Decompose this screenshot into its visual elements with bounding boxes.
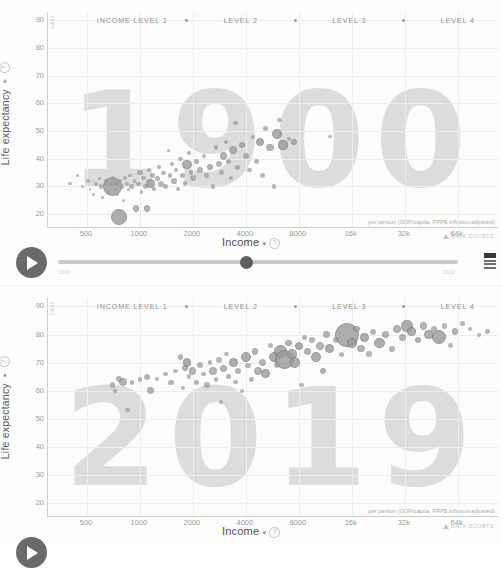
bubble-data-point[interactable] (393, 325, 401, 333)
year-slider-handle[interactable] (240, 256, 253, 269)
bubble-data-point[interactable] (389, 346, 395, 352)
bubble-data-point[interactable] (118, 179, 122, 183)
bubble-data-point[interactable] (178, 354, 184, 360)
bubble-data-point[interactable] (209, 367, 217, 375)
bubble-data-point[interactable] (214, 145, 219, 150)
legend-item-level-4[interactable]: LEVEL 4 (421, 16, 496, 25)
bubble-data-point[interactable] (224, 140, 228, 144)
bubble-data-point[interactable] (147, 387, 154, 394)
plot-area-2019[interactable]: 2019 per person (GDP/capita, PPP$ inflat… (47, 298, 498, 517)
bubble-data-point[interactable] (163, 372, 167, 376)
bubble-data-point[interactable] (460, 321, 465, 326)
bubble-data-point[interactable] (125, 182, 129, 186)
bubble-data-point[interactable] (68, 182, 72, 186)
bubble-data-point[interactable] (302, 335, 308, 341)
bubble-data-point[interactable] (278, 140, 287, 149)
legend-item-level-2[interactable]: LEVEL 2 (204, 16, 279, 25)
bubble-data-point[interactable] (214, 377, 218, 381)
bubble-data-point[interactable] (261, 369, 270, 378)
bubble-data-point[interactable] (226, 374, 231, 379)
bubble-data-point[interactable] (485, 329, 490, 334)
bubble-data-point[interactable] (247, 168, 252, 173)
bubble-data-point[interactable] (167, 149, 170, 152)
bubble-data-point[interactable] (202, 154, 206, 158)
plot-area-1900[interactable]: 1900 per person (GDP/capita, PPP$ inflat… (47, 12, 498, 228)
help-icon[interactable]: ? (0, 62, 11, 73)
bubble-data-point[interactable] (110, 382, 115, 387)
bubble-data-point[interactable] (442, 323, 448, 329)
bubble-data-point[interactable] (219, 400, 223, 404)
bubble-data-point[interactable] (249, 377, 254, 382)
bubble-data-point[interactable] (339, 352, 344, 357)
bubble-data-point[interactable] (224, 352, 229, 357)
bubble-data-point[interactable] (128, 174, 131, 177)
legend-item-level-3[interactable]: LEVEL 3 (312, 302, 387, 311)
bubble-data-point[interactable] (168, 380, 173, 385)
bubble-data-point[interactable] (136, 182, 140, 186)
bubble-data-point[interactable] (176, 187, 180, 191)
bubble-data-point[interactable] (147, 168, 151, 172)
bubble-data-point[interactable] (171, 178, 176, 183)
bubble-data-point[interactable] (366, 351, 372, 357)
legend-item-level-1[interactable]: INCOME LEVEL 1 (95, 16, 170, 25)
bubble-data-point[interactable] (133, 205, 140, 212)
bubble-data-point[interactable] (204, 382, 209, 387)
bubble-data-point[interactable] (256, 138, 264, 146)
bubble-data-point[interactable] (194, 159, 198, 163)
bubble-data-point[interactable] (92, 193, 95, 196)
bubble-data-point[interactable] (180, 173, 185, 178)
bubble-data-point[interactable] (229, 358, 238, 367)
bubble-data-point[interactable] (190, 175, 196, 181)
bubble-data-point[interactable] (81, 185, 84, 188)
bubble-data-point[interactable] (197, 362, 203, 368)
bubble-data-point[interactable] (194, 380, 199, 385)
bubble-data-point[interactable] (233, 380, 237, 384)
bubble-data-point[interactable] (220, 365, 227, 372)
bubble-data-point[interactable] (477, 333, 481, 337)
bubble-data-point[interactable] (208, 360, 213, 365)
data-doubts-link[interactable]: DATA DOUBTS (443, 523, 494, 529)
bubble-data-point[interactable] (182, 160, 191, 169)
bubble-data-point[interactable] (140, 190, 144, 194)
bubble-data-point[interactable] (211, 184, 215, 188)
bubble-data-point[interactable] (304, 348, 311, 355)
bubble-data-point[interactable] (89, 188, 92, 191)
bubble-data-point[interactable] (468, 327, 472, 331)
play-button[interactable] (16, 247, 47, 278)
y-axis-label-2019[interactable]: Life expectancy ▾ ? (0, 356, 11, 459)
bubble-data-point[interactable] (233, 121, 237, 125)
bubble-data-point[interactable] (235, 165, 240, 170)
bubble-data-point[interactable] (144, 205, 150, 211)
bubble-data-point[interactable] (116, 193, 119, 196)
bubble-data-point[interactable] (432, 330, 446, 344)
bubble-data-point[interactable] (201, 372, 205, 376)
play-button[interactable] (16, 537, 47, 568)
bubble-data-point[interactable] (129, 184, 134, 189)
bubble-data-point[interactable] (178, 157, 182, 161)
bubble-data-point[interactable] (272, 184, 276, 188)
bubble-data-point[interactable] (407, 327, 415, 335)
bubble-data-point[interactable] (138, 377, 142, 381)
bubble-data-point[interactable] (207, 164, 213, 170)
bubble-data-point[interactable] (245, 363, 251, 369)
legend-item-level-4[interactable]: LEVEL 4 (421, 302, 496, 311)
help-icon[interactable]: ? (0, 356, 11, 367)
bubble-data-point[interactable] (168, 173, 172, 177)
bubble-data-point[interactable] (415, 337, 421, 343)
bubble-data-point[interactable] (123, 176, 127, 180)
bubble-data-point[interactable] (357, 345, 365, 353)
bubble-data-point[interactable] (235, 368, 241, 374)
bubble-data-point[interactable] (187, 374, 192, 379)
bubble-data-point[interactable] (266, 144, 274, 152)
legend-item-level-2[interactable]: LEVEL 2 (204, 302, 279, 311)
bubble-data-point[interactable] (347, 338, 357, 348)
bubble-data-point[interactable] (76, 174, 79, 177)
country-flag-icon[interactable] (484, 253, 496, 268)
bubble-data-point[interactable] (399, 334, 406, 341)
bubble-data-point[interactable] (299, 383, 303, 387)
bubble-data-point[interactable] (252, 348, 258, 354)
bubble-data-point[interactable] (241, 352, 251, 362)
year-slider[interactable]: 1800 2019 (58, 260, 458, 264)
bubble-data-point[interactable] (268, 343, 273, 348)
bubble-data-point[interactable] (291, 139, 297, 145)
